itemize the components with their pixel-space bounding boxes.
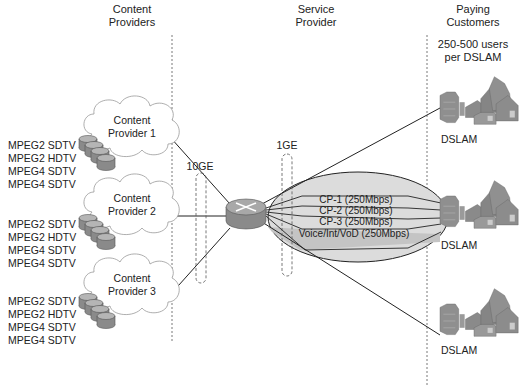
svg-text:Provider 1: Provider 1 bbox=[108, 127, 156, 139]
svg-text:Content: Content bbox=[114, 192, 151, 204]
channel-label-voice: Voice/Int/VoD (250Mbps) bbox=[299, 228, 410, 239]
svg-text:MPEG2 HDTV: MPEG2 HDTV bbox=[8, 308, 76, 320]
label-10ge: 10GE bbox=[187, 160, 214, 172]
svg-text:250-500 users: 250-500 users bbox=[438, 38, 509, 50]
svg-text:MPEG2 SDTV: MPEG2 SDTV bbox=[8, 295, 76, 307]
link-group-10ge bbox=[196, 173, 206, 283]
svg-text:Provider 3: Provider 3 bbox=[108, 285, 156, 297]
svg-text:MPEG4 SDTV: MPEG4 SDTV bbox=[8, 178, 76, 190]
svg-text:per DSLAM: per DSLAM bbox=[445, 51, 502, 63]
svg-text:MPEG4 SDTV: MPEG4 SDTV bbox=[8, 321, 76, 333]
svg-text:MPEG4 SDTV: MPEG4 SDTV bbox=[8, 244, 76, 256]
dslam-2-label: DSLAM bbox=[441, 239, 477, 251]
channel-label-cp3: CP-3 (250Mbps) bbox=[319, 216, 392, 227]
channel-label-cp1: CP-1 (250Mbps) bbox=[319, 194, 392, 205]
section-header-service-provider: Service Provider bbox=[296, 3, 337, 28]
svg-text:MPEG2 SDTV: MPEG2 SDTV bbox=[8, 139, 76, 151]
svg-text:Content: Content bbox=[113, 3, 152, 15]
svg-text:MPEG4 SDTV: MPEG4 SDTV bbox=[8, 334, 76, 346]
dslam-2-icon bbox=[440, 181, 518, 229]
svg-text:Provider 2: Provider 2 bbox=[108, 205, 156, 217]
svg-text:MPEG4 SDTV: MPEG4 SDTV bbox=[8, 165, 76, 177]
svg-text:Content: Content bbox=[114, 114, 151, 126]
network-diagram: Content Providers Service Provider Payin… bbox=[0, 0, 522, 387]
svg-text:MPEG2 HDTV: MPEG2 HDTV bbox=[8, 231, 76, 243]
format-list-cp3: MPEG2 SDTV MPEG2 HDTV MPEG4 SDTV MPEG4 S… bbox=[8, 295, 76, 346]
dslam-1-icon bbox=[440, 77, 518, 125]
format-list-cp2: MPEG2 SDTV MPEG2 HDTV MPEG4 SDTV MPEG4 S… bbox=[8, 218, 76, 269]
svg-text:Provider: Provider bbox=[296, 16, 337, 28]
section-header-paying-customers: Paying Customers bbox=[446, 3, 500, 28]
svg-text:MPEG2 SDTV: MPEG2 SDTV bbox=[8, 218, 76, 230]
svg-text:MPEG4 SDTV: MPEG4 SDTV bbox=[8, 257, 76, 269]
router-icon bbox=[226, 199, 266, 229]
dslam-1-label: DSLAM bbox=[441, 133, 477, 145]
svg-text:MPEG2 HDTV: MPEG2 HDTV bbox=[8, 152, 76, 164]
link-cp3-router bbox=[170, 228, 230, 295]
label-1ge: 1GE bbox=[276, 139, 297, 151]
users-per-dslam-note: 250-500 users per DSLAM bbox=[438, 38, 509, 63]
svg-text:Service: Service bbox=[298, 3, 335, 15]
svg-text:Customers: Customers bbox=[446, 16, 500, 28]
svg-text:Paying: Paying bbox=[456, 3, 490, 15]
section-header-content-providers: Content Providers bbox=[109, 3, 156, 28]
svg-text:Providers: Providers bbox=[109, 16, 156, 28]
dslam-3-icon bbox=[440, 289, 518, 337]
svg-text:Content: Content bbox=[114, 272, 151, 284]
format-list-cp1: MPEG2 SDTV MPEG2 HDTV MPEG4 SDTV MPEG4 S… bbox=[8, 139, 76, 190]
channel-label-cp2: CP-2 (250Mbps) bbox=[319, 205, 392, 216]
dslam-3-label: DSLAM bbox=[441, 344, 477, 356]
